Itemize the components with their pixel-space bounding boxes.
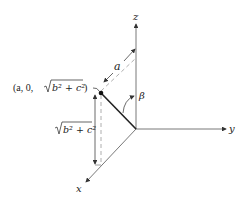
angle-arc-beta bbox=[123, 96, 134, 113]
x-axis bbox=[86, 129, 136, 182]
angle-label-beta: β bbox=[138, 90, 145, 101]
x-axis-label: x bbox=[76, 183, 82, 194]
point-label-suffix: ) bbox=[84, 82, 87, 94]
point-label-prefix: (a, 0, bbox=[13, 82, 33, 94]
position-vector bbox=[101, 93, 136, 129]
point-label-radicand: b² + c² bbox=[52, 82, 85, 93]
y-axis-label: y bbox=[228, 123, 235, 134]
height-label-radicand: b² + c² bbox=[63, 124, 96, 135]
point-coordinate-label: (a, 0, b² + c² ) bbox=[13, 80, 87, 94]
dimension-a-line-upper bbox=[124, 49, 135, 61]
height-label: b² + c² bbox=[55, 122, 96, 135]
z-axis-label: z bbox=[132, 11, 139, 22]
length-label-a: a bbox=[114, 60, 121, 73]
point-label-leader bbox=[93, 88, 100, 92]
3d-coordinate-diagram: a β z y x (a, 0, b² + c² ) b² + c² bbox=[0, 0, 244, 199]
